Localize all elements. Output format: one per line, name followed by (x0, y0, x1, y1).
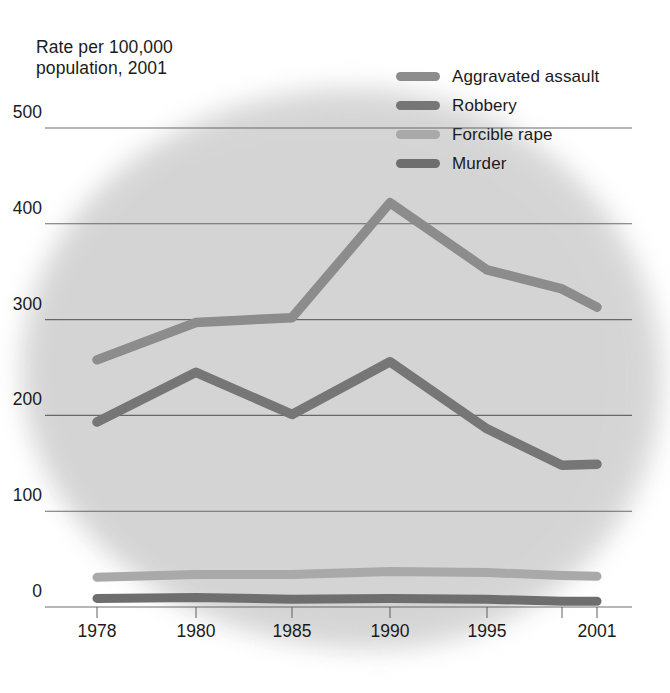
x-axis-tick-label: 1995 (451, 621, 523, 642)
y-axis-tick-label: 300 (0, 294, 42, 315)
y-axis-tick-label: 0 (0, 581, 42, 602)
x-axis-tick-label: 1980 (160, 621, 232, 642)
x-axis-tick-label: 1990 (354, 621, 426, 642)
series-line (97, 572, 597, 578)
y-axis-tick-label: 500 (0, 102, 42, 123)
plot-svg (0, 0, 670, 693)
series-line (97, 362, 597, 465)
series-line (97, 597, 597, 601)
x-axis-tick-label: 2001 (561, 621, 633, 642)
y-axis-tick-label: 200 (0, 389, 42, 410)
y-axis-tick-label: 100 (0, 485, 42, 506)
chart-root: Rate per 100,000 population, 2001 Aggrav… (0, 0, 670, 693)
y-axis-tick-label: 400 (0, 198, 42, 219)
gridlines (45, 128, 632, 607)
x-axis-ticks (97, 607, 597, 618)
series-line (97, 203, 597, 360)
series-lines (97, 203, 597, 602)
x-axis-tick-label: 1985 (256, 621, 328, 642)
x-axis-tick-label: 1978 (61, 621, 133, 642)
plot-area (0, 0, 670, 693)
